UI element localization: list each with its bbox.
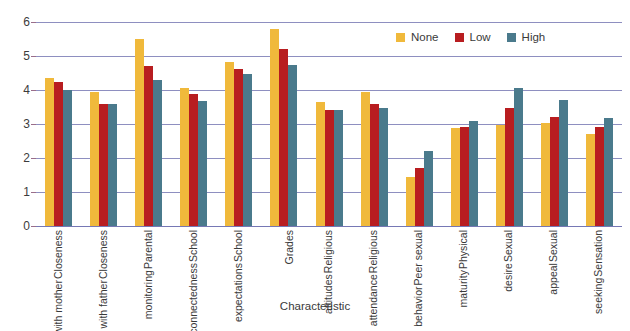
x-axis-label: Schoolexpectations (216, 228, 261, 300)
bar-group (81, 22, 126, 226)
legend-label: High (522, 31, 546, 43)
legend-swatch-icon (507, 33, 516, 42)
legend-swatch-icon (396, 33, 405, 42)
bar-low (595, 127, 604, 226)
bar-group (577, 22, 622, 226)
bar-none (586, 134, 595, 226)
y-tick-label-3: 3 (0, 116, 36, 132)
bar-group (442, 22, 487, 226)
bar-low (99, 104, 108, 226)
x-axis-label: Sexualdesire (487, 228, 532, 300)
bar-low (325, 110, 334, 226)
bar-none (180, 88, 189, 226)
bar-low (505, 108, 514, 226)
bar-low (54, 82, 63, 227)
bar-group (306, 22, 351, 226)
y-tick-label-1: 1 (0, 184, 36, 200)
bar-none (541, 123, 550, 226)
bar-group (126, 22, 171, 226)
x-axis-title: Characteristic (0, 300, 630, 312)
y-tick-label-0: 0 (0, 218, 36, 234)
bar-chart: 0123456 Closenesswith motherClosenesswit… (0, 0, 630, 331)
legend-item-low[interactable]: Low (455, 31, 491, 43)
bar-high (334, 110, 343, 226)
bar-group (487, 22, 532, 226)
bar-high (153, 80, 162, 226)
bar-high (288, 65, 297, 227)
bar-none (496, 125, 505, 226)
bar-none (135, 39, 144, 226)
bar-group (216, 22, 261, 226)
bar-none (270, 29, 279, 226)
bar-low (144, 66, 153, 226)
legend-label: Low (470, 31, 491, 43)
x-axis-label: Sensationseeking (577, 228, 622, 300)
x-axis-label: Schoolconnectedness (171, 228, 216, 300)
y-tick-label-5: 5 (0, 48, 36, 64)
bar-high (469, 121, 478, 226)
bar-group (532, 22, 577, 226)
x-axis-label: Peer sexualbehavior (397, 228, 442, 300)
legend-swatch-icon (455, 33, 464, 42)
bar-groups (36, 22, 622, 226)
bar-group (261, 22, 306, 226)
bar-low (189, 94, 198, 226)
x-axis-label: Sexualappeal (532, 228, 577, 300)
x-axis-label: Grades (261, 228, 306, 300)
bar-group (171, 22, 216, 226)
x-axis-label: Closenesswith father (81, 228, 126, 300)
x-axis-label: Physicalmaturity (442, 228, 487, 300)
bar-high (424, 151, 433, 226)
plot-area (36, 22, 622, 226)
legend-item-high[interactable]: High (507, 31, 546, 43)
bar-none (90, 92, 99, 226)
bar-low (415, 168, 424, 226)
bar-none (225, 62, 234, 226)
bar-group (352, 22, 397, 226)
legend-label: None (411, 31, 439, 43)
y-tick-label-4: 4 (0, 82, 36, 98)
bar-group (36, 22, 81, 226)
bar-low (550, 117, 559, 226)
x-axis-label: Religiousattitudes (306, 228, 351, 300)
bar-none (451, 128, 460, 226)
bar-none (45, 78, 54, 226)
bar-low (234, 69, 243, 226)
bar-high (108, 104, 117, 226)
bar-high (604, 118, 613, 226)
bar-low (460, 127, 469, 226)
legend: NoneLowHigh (396, 31, 545, 43)
bar-group (397, 22, 442, 226)
bar-none (316, 102, 325, 226)
bar-none (406, 177, 415, 226)
x-axis-label: Closenesswith mother (36, 228, 81, 300)
bar-high (379, 108, 388, 226)
bar-low (279, 49, 288, 226)
gridline-0 (36, 226, 622, 227)
x-axis-label: Parentalmonitoring (126, 228, 171, 300)
y-tick-label-6: 6 (0, 14, 36, 30)
legend-item-none[interactable]: None (396, 31, 439, 43)
bar-none (361, 92, 370, 226)
x-axis-category-labels: Closenesswith motherClosenesswith father… (36, 228, 622, 300)
bar-high (514, 88, 523, 226)
bar-high (243, 74, 252, 226)
bar-high (63, 90, 72, 226)
bar-high (559, 100, 568, 226)
bar-low (370, 104, 379, 226)
y-tick-label-2: 2 (0, 150, 36, 166)
x-axis-label: Religiousattendance (352, 228, 397, 300)
bar-high (198, 101, 207, 226)
